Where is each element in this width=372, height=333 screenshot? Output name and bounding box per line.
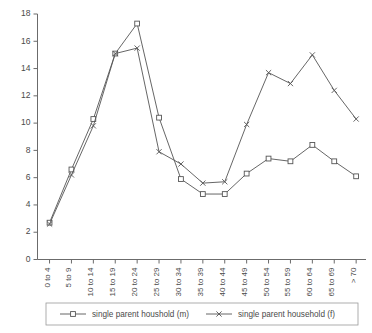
x-tick-label: 65 to 69	[327, 267, 336, 296]
y-tick-label: 6	[26, 172, 31, 182]
legend-label: single parent houshold (m)	[92, 310, 189, 319]
y-tick-label: 12	[21, 90, 31, 100]
x-tick-label: 35 to 39	[196, 267, 205, 296]
series-line	[50, 48, 357, 224]
x-tick-label: 20 to 24	[130, 267, 139, 296]
data-point-x	[288, 81, 293, 86]
data-point-square	[266, 156, 271, 161]
data-point-square	[157, 115, 162, 120]
data-point-x	[91, 123, 96, 128]
x-tick-label: 40 to 44	[218, 267, 227, 296]
data-point-square	[222, 192, 227, 197]
line-chart: 024681012141618 0 to 45 to 910 to 1415 t…	[0, 0, 372, 333]
legend-marker-square	[71, 312, 76, 317]
data-point-square	[135, 21, 140, 26]
y-tick-label: 2	[26, 226, 31, 236]
x-tick-label: 25 to 29	[152, 267, 161, 296]
series-2	[47, 45, 359, 226]
x-tick-label: 15 to 19	[108, 267, 117, 296]
x-tick-label: 30 to 34	[174, 267, 183, 296]
chart-legend: single parent houshold (m)single parent …	[46, 303, 358, 325]
data-point-square	[354, 174, 359, 179]
y-tick-label: 16	[21, 36, 31, 46]
x-tick-label: 10 to 14	[86, 267, 95, 296]
y-tick-label: 8	[26, 145, 31, 155]
y-tick-label: 0	[26, 254, 31, 264]
data-point-x	[266, 70, 271, 75]
x-tick-label: 45 to 49	[240, 267, 249, 296]
y-tick-label: 18	[21, 8, 31, 18]
data-point-x	[178, 161, 183, 166]
y-tick-group: 024681012141618	[21, 8, 37, 264]
data-point-square	[310, 143, 315, 148]
y-tick-label: 10	[21, 117, 31, 127]
data-point-square	[179, 177, 184, 182]
data-point-x	[332, 88, 337, 93]
x-tick-label: 50 to 54	[262, 267, 271, 296]
series-group	[47, 21, 359, 226]
data-point-x	[354, 116, 359, 121]
data-point-square	[200, 192, 205, 197]
data-point-x	[244, 122, 249, 127]
x-tick-group: 0 to 45 to 910 to 1415 to 1920 to 2425 t…	[43, 260, 359, 297]
data-point-square	[288, 159, 293, 164]
x-tick-label: 60 to 64	[305, 267, 314, 296]
data-point-x	[310, 52, 315, 57]
legend-label: single parent household (f)	[238, 310, 335, 319]
y-tick-label: 14	[21, 63, 31, 73]
chart-canvas: 024681012141618 0 to 45 to 910 to 1415 t…	[0, 0, 372, 333]
x-tick-label: 5 to 9	[64, 267, 73, 288]
x-tick-label: > 70	[349, 267, 358, 283]
data-point-square	[332, 159, 337, 164]
x-tick-label: 55 to 59	[283, 267, 292, 296]
data-point-square	[244, 171, 249, 176]
y-tick-label: 4	[26, 199, 31, 209]
x-tick-label: 0 to 4	[43, 267, 52, 288]
